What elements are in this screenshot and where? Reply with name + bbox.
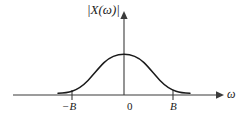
vertical-axis-arrowhead xyxy=(120,11,127,19)
horizontal-axis-arrowhead xyxy=(216,91,224,99)
tick-label-positive-b: B xyxy=(170,101,177,112)
horizontal-axis-label: ω xyxy=(227,88,235,100)
spectrum-figure: |X(ω)| −B 0 B ω xyxy=(0,0,252,124)
figure-canvas xyxy=(0,0,252,124)
tick-label-zero: 0 xyxy=(127,101,133,112)
tick-label-negative-b: −B xyxy=(62,101,76,112)
magnitude-spectrum-title: |X(ω)| xyxy=(87,3,120,16)
